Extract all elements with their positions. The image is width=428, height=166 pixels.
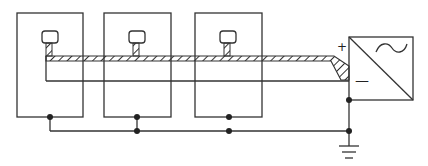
plus-label: + xyxy=(337,40,347,54)
junction-dots xyxy=(47,97,352,134)
sensor-stems xyxy=(46,43,230,56)
sensor-3-icon xyxy=(220,31,236,43)
ground-icon xyxy=(339,146,359,158)
panel-2 xyxy=(104,13,171,117)
circuit-diagram: + — xyxy=(0,0,428,166)
ac-symbol-icon xyxy=(376,44,407,52)
sensor-2-icon xyxy=(129,31,145,43)
panel-3 xyxy=(195,13,262,117)
minus-label: — xyxy=(355,72,369,88)
shielded-cable xyxy=(46,56,349,80)
panel-1 xyxy=(17,13,83,117)
inverter-diagonal xyxy=(349,37,413,100)
sensor-1-icon xyxy=(42,31,58,43)
